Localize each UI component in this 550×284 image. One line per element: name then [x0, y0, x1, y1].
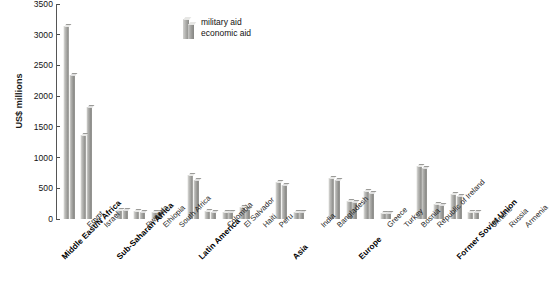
- bar-military-aid: [133, 211, 139, 219]
- bar-pair: [363, 4, 377, 219]
- bar-pair: [80, 4, 94, 219]
- legend-label-economic: economic aid: [201, 28, 251, 38]
- bar-military-aid: [467, 212, 473, 219]
- y-tick: 3000: [0, 30, 60, 40]
- plot-area: [57, 4, 499, 219]
- y-axis-ticks: 3500300025002000150010005000: [0, 0, 60, 240]
- bar-pair: [133, 4, 147, 219]
- bar-military-aid: [63, 26, 69, 220]
- bar-pair: [151, 4, 165, 219]
- bar-pair: [450, 4, 464, 219]
- bar-pair: [293, 4, 307, 219]
- legend-label-military: military aid: [201, 17, 251, 27]
- bar-economic-aid: [368, 193, 374, 219]
- y-tick: 2500: [0, 60, 60, 70]
- bar-economic-aid: [334, 180, 340, 219]
- bar-pair: [63, 4, 77, 219]
- y-tick: 1000: [0, 153, 60, 163]
- legend: military aid economic aid: [183, 17, 251, 39]
- x-axis-region-label: Europe: [357, 235, 384, 262]
- bar-military-aid: [204, 211, 210, 219]
- bar-pair: [275, 4, 289, 219]
- bar-economic-aid: [473, 212, 479, 219]
- bar-economic-aid: [210, 212, 216, 219]
- x-axis-region-label: Asia: [291, 243, 310, 262]
- bar-military-aid: [80, 135, 86, 219]
- bar-economic-aid: [122, 210, 128, 219]
- y-tick: 500: [0, 183, 60, 193]
- y-tick: 2000: [0, 91, 60, 101]
- bar-economic-aid: [86, 107, 92, 219]
- bar-economic-aid: [139, 212, 145, 219]
- bar-pair: [346, 4, 360, 219]
- bar-pair: [416, 4, 430, 219]
- bar-pair: [380, 4, 394, 219]
- bar-pair: [328, 4, 342, 219]
- bar-economic-aid: [69, 75, 75, 219]
- x-axis-country-label: Armenia: [523, 203, 550, 230]
- bar-pair: [433, 4, 447, 219]
- legend-swatch-icon: [183, 17, 196, 39]
- y-tick: 1500: [0, 122, 60, 132]
- y-tick: 0: [0, 214, 60, 224]
- x-axis-labels: Middle East/N AfricaEgyptIsraelSub-Sahar…: [57, 221, 499, 284]
- y-tick: 3500: [0, 0, 60, 9]
- bar-pair: [116, 4, 130, 219]
- bar-military-aid: [380, 213, 386, 219]
- bar-military-aid: [222, 212, 228, 219]
